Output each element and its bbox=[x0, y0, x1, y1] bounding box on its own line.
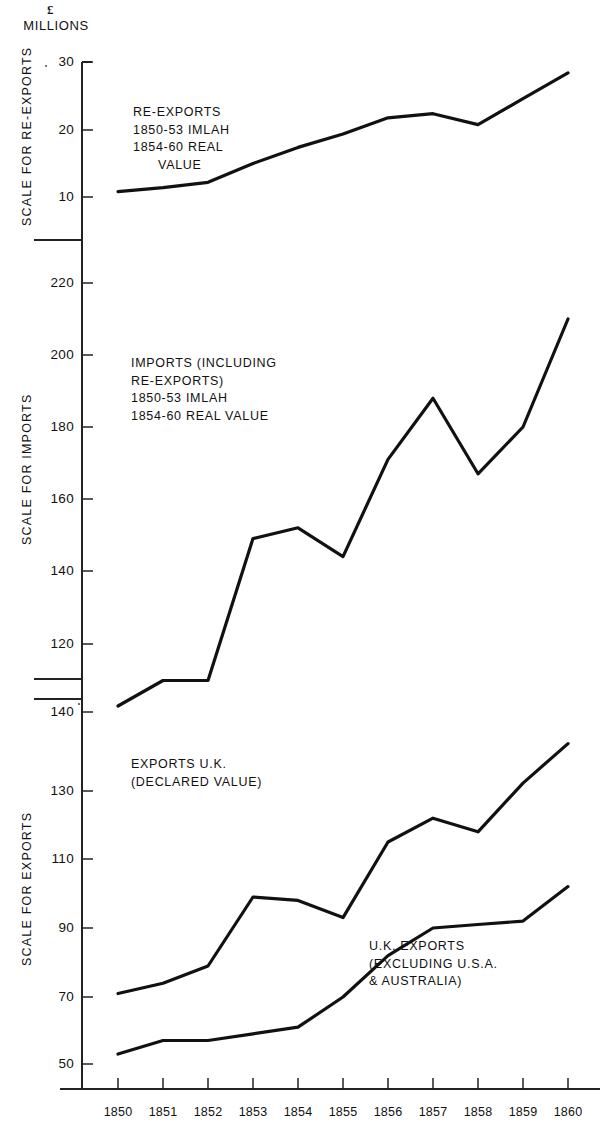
data-series-layer bbox=[0, 0, 610, 1131]
series-line-exports-excluding bbox=[118, 887, 568, 1054]
chart-figure: £ MILLIONS SCALE FOR RE-EXPORTS SCALE FO… bbox=[0, 0, 610, 1131]
series-line-imports bbox=[118, 319, 568, 706]
series-line-reexports bbox=[118, 73, 568, 192]
series-line-exports-declared bbox=[118, 744, 568, 994]
